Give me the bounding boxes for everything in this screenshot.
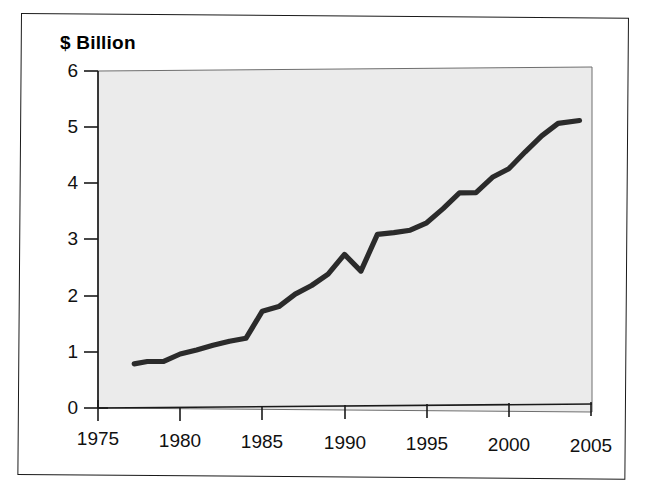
y-tick-label-1: 1 — [52, 341, 78, 363]
plot-svg — [0, 0, 648, 498]
y-tick-label-0: 0 — [52, 397, 78, 419]
x-tick-label-2000: 2000 — [479, 434, 539, 456]
x-tick-label-1975: 1975 — [68, 428, 128, 450]
y-tick-label-4: 4 — [52, 172, 78, 194]
x-tick-label-1985: 1985 — [232, 431, 292, 453]
y-tick-label-6: 6 — [52, 60, 78, 82]
x-tick-label-2005: 2005 — [561, 435, 621, 457]
chart-page: $ Billion — [0, 0, 648, 498]
x-tick-label-1980: 1980 — [150, 430, 210, 452]
line-chart: $ Billion — [0, 0, 648, 498]
y-tick-label-2: 2 — [52, 285, 78, 307]
x-tick-label-1995: 1995 — [397, 433, 457, 455]
y-tick-label-5: 5 — [52, 116, 78, 138]
x-tick-label-1990: 1990 — [315, 432, 375, 454]
y-tick-label-3: 3 — [52, 228, 78, 250]
